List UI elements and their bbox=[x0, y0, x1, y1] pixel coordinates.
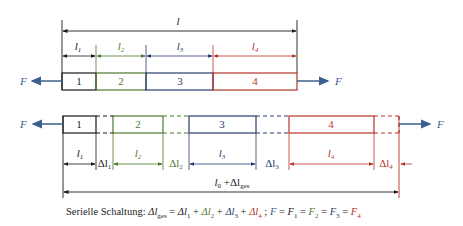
eq: = bbox=[167, 206, 178, 217]
delta-l4-label: Δl4 bbox=[379, 157, 393, 171]
top-force-left-label: F bbox=[19, 75, 27, 87]
plus: + bbox=[214, 206, 225, 217]
eq: = bbox=[297, 206, 308, 217]
top-segment-3-number: 3 bbox=[177, 75, 183, 87]
term-dl4: Δl4 bbox=[249, 206, 262, 217]
l4-label: l4 bbox=[252, 40, 259, 54]
bottom-force-left-label: F bbox=[19, 118, 27, 130]
elongation-3-dashed bbox=[256, 116, 289, 133]
bottom-segment-2-number: 2 bbox=[135, 118, 141, 130]
bottom-l1-label: l1 bbox=[77, 147, 84, 161]
eq: = bbox=[276, 206, 287, 217]
top-force-right-label: F bbox=[334, 75, 342, 87]
series-formula: Serielle Schaltung: Δlges = Δl1 + Δl2 + … bbox=[66, 206, 361, 220]
total-length-label: l bbox=[176, 15, 179, 27]
total-loaded-length-label: l0 +Δlges bbox=[215, 176, 250, 190]
l3-label: l3 bbox=[177, 40, 184, 54]
term-F1: F1 bbox=[288, 206, 298, 217]
elongation-1-dashed bbox=[96, 116, 113, 133]
eq: = bbox=[340, 206, 351, 217]
bottom-segment-4-number: 4 bbox=[328, 118, 334, 130]
formula-prefix: Serielle Schaltung: bbox=[66, 206, 148, 217]
top-segment-4-number: 4 bbox=[252, 75, 258, 87]
term-dl2: Δl2 bbox=[202, 206, 215, 217]
eq: = bbox=[319, 206, 330, 217]
term-F3: F3 bbox=[330, 206, 340, 217]
delta-l1-label: Δl1 bbox=[98, 157, 112, 171]
delta-l3-label: Δl3 bbox=[265, 157, 279, 171]
term-dl3: Δl3 bbox=[225, 206, 238, 217]
bottom-segment-3-number: 3 bbox=[219, 118, 225, 130]
term-F4: F4 bbox=[351, 206, 361, 217]
bottom-l3-label: l3 bbox=[219, 147, 226, 161]
delta-l2-label: Δl2 bbox=[169, 157, 183, 171]
term-F2: F2 bbox=[309, 206, 319, 217]
elongation-4-dashed bbox=[374, 116, 399, 133]
top-segment-2-number: 2 bbox=[118, 75, 124, 87]
bottom-l4-label: l4 bbox=[328, 147, 335, 161]
separator: ; bbox=[262, 206, 270, 217]
plus: + bbox=[238, 206, 249, 217]
term-dl1: Δl1 bbox=[178, 206, 191, 217]
bottom-l2-label: l2 bbox=[135, 147, 142, 161]
plus: + bbox=[190, 206, 201, 217]
l1-label: l1 bbox=[75, 40, 82, 54]
serial-spring-diagram: l l1 l2 l3 l4 1 2 3 4 F F bbox=[0, 0, 463, 226]
elongation-2-dashed bbox=[163, 116, 189, 133]
top-assembly: l l1 l2 l3 l4 1 2 3 4 F F bbox=[19, 15, 342, 90]
l2-label: l2 bbox=[118, 40, 125, 54]
delta-l-ges: Δl bbox=[148, 206, 157, 217]
bottom-assembly: 1 2 3 4 F F l1 l2 l3 l4 Δl1 Δl2 Δl3 Δl4 … bbox=[19, 116, 444, 198]
bottom-force-right-label: F bbox=[436, 118, 444, 130]
top-segment-1-number: 1 bbox=[76, 75, 82, 87]
bottom-segment-1-number: 1 bbox=[76, 118, 82, 130]
ges-sub: ges bbox=[157, 212, 166, 220]
